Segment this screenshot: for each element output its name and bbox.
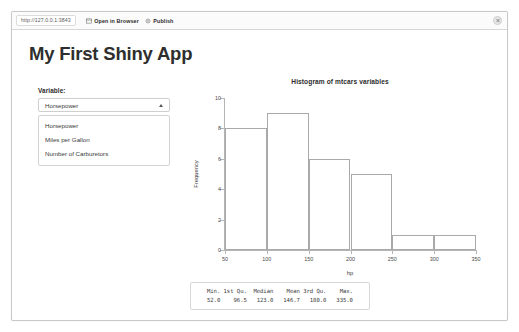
close-icon[interactable] bbox=[493, 16, 502, 25]
x-axis-tick-label: 250 bbox=[388, 256, 397, 262]
open-in-browser-label: Open in Browser bbox=[94, 18, 139, 24]
plot-axes-area: 0246810 50100150200250300350 bbox=[224, 98, 476, 250]
x-axis-tick-label: 50 bbox=[222, 256, 228, 262]
x-axis-tick-label: 100 bbox=[262, 256, 271, 262]
open-in-browser-button[interactable]: Open in Browser bbox=[83, 18, 142, 24]
histogram-plot: Histogram of mtcars variables 0246810 50… bbox=[190, 78, 490, 278]
browser-window-icon bbox=[86, 18, 92, 24]
y-axis-title: Frequency bbox=[193, 160, 199, 187]
y-axis-tick-label: 8 bbox=[218, 125, 221, 131]
publish-icon bbox=[145, 18, 151, 24]
summary-text: Min. 1st Qu. Median Mean 3rd Qu. Max. 52… bbox=[197, 287, 363, 304]
histogram-bar bbox=[267, 113, 309, 250]
x-axis-tick bbox=[392, 250, 393, 254]
summary-output: Min. 1st Qu. Median Mean 3rd Qu. Max. 52… bbox=[190, 282, 370, 310]
x-axis-tick bbox=[434, 250, 435, 254]
y-axis-tick-label: 4 bbox=[218, 186, 221, 192]
plot-title: Histogram of mtcars variables bbox=[190, 78, 490, 85]
x-axis-title: hp bbox=[224, 270, 476, 276]
variable-label: Variable: bbox=[38, 87, 170, 94]
url-field[interactable]: http://127.0.0.1:3843 bbox=[16, 15, 76, 26]
histogram-bar bbox=[434, 235, 476, 250]
page-content: My First Shiny App Variable: Horsepower … bbox=[12, 30, 507, 320]
y-axis-tick-label: 0 bbox=[218, 247, 221, 253]
variable-select[interactable]: Horsepower bbox=[38, 98, 170, 112]
x-axis-tick-label: 200 bbox=[346, 256, 355, 262]
histogram-bar bbox=[309, 159, 351, 250]
app-window: http://127.0.0.1:3843 Open in Browser Pu… bbox=[11, 11, 508, 321]
x-axis-tick bbox=[351, 250, 352, 254]
histogram-bar bbox=[351, 174, 393, 250]
x-axis-tick bbox=[476, 250, 477, 254]
histogram-bar bbox=[225, 128, 267, 250]
x-axis-tick bbox=[309, 250, 310, 254]
x-axis-tick-label: 350 bbox=[472, 256, 481, 262]
x-axis-tick bbox=[225, 250, 226, 254]
y-axis-tick-label: 10 bbox=[215, 95, 221, 101]
y-axis-tick-label: 2 bbox=[218, 217, 221, 223]
y-axis-tick-label: 6 bbox=[218, 156, 221, 162]
publish-button[interactable]: Publish bbox=[142, 18, 177, 24]
dropdown-option-number-of-carburetors[interactable]: Number of Carburetors bbox=[39, 147, 169, 161]
variable-dropdown-list: Horsepower Miles per Gallon Number of Ca… bbox=[38, 115, 170, 166]
dropdown-option-horsepower[interactable]: Horsepower bbox=[39, 119, 169, 133]
histogram-bars bbox=[225, 98, 476, 250]
x-axis-tick bbox=[267, 250, 268, 254]
sidebar-panel: Variable: Horsepower Horsepower Miles pe… bbox=[38, 87, 170, 166]
histogram-bar bbox=[392, 235, 434, 250]
x-axis-tick-label: 300 bbox=[430, 256, 439, 262]
dropdown-option-miles-per-gallon[interactable]: Miles per Gallon bbox=[39, 133, 169, 147]
variable-select-value: Horsepower bbox=[45, 102, 78, 109]
chevron-up-icon bbox=[159, 104, 163, 107]
page-title: My First Shiny App bbox=[29, 43, 192, 65]
publish-label: Publish bbox=[153, 18, 173, 24]
toolbar: http://127.0.0.1:3843 Open in Browser Pu… bbox=[12, 12, 507, 30]
x-axis-tick-label: 150 bbox=[304, 256, 313, 262]
